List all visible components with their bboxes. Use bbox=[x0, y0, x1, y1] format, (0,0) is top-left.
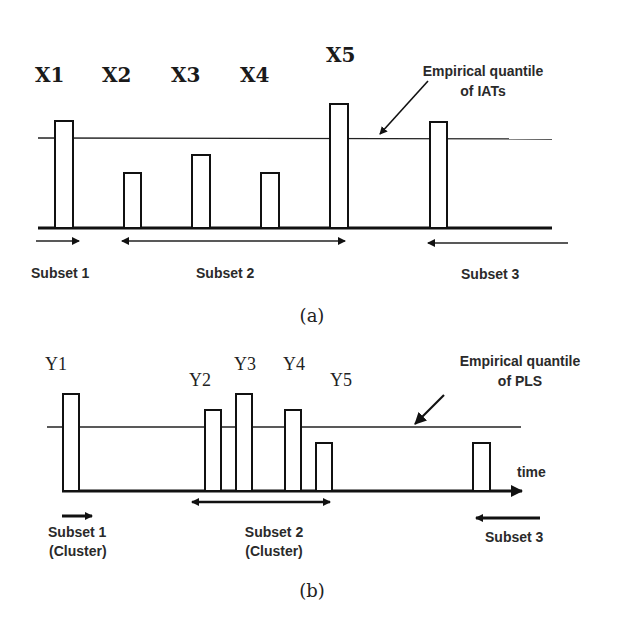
bar-6 bbox=[473, 443, 490, 491]
bar-6 bbox=[430, 122, 447, 228]
bar-label-x3: X3 bbox=[171, 63, 200, 87]
bar-x1 bbox=[55, 121, 73, 228]
bar-label-x1: X1 bbox=[35, 63, 64, 87]
subset2-label-line1: Subset 2 bbox=[245, 524, 304, 540]
quantile-annotation-line1: Empirical quantile bbox=[460, 353, 581, 369]
subset1-label-line1: Subset 1 bbox=[48, 524, 107, 540]
caption-b: (b) bbox=[299, 580, 325, 601]
bar-label-x5: X5 bbox=[326, 43, 355, 67]
figure: X1 X2 X3 X4 X5 Empirical quantile of IAT… bbox=[0, 0, 624, 632]
bar-label-y5: Y5 bbox=[330, 370, 352, 390]
bar-label-x2: X2 bbox=[102, 63, 131, 87]
subset3-label: Subset 3 bbox=[461, 266, 520, 282]
subset1-label-line2: (Cluster) bbox=[49, 543, 107, 559]
panel-b: Y1 Y2 Y3 Y4 Y5 Empirical quantile of PLS… bbox=[45, 353, 581, 601]
bar-x4 bbox=[261, 173, 279, 228]
bar-x2 bbox=[124, 173, 141, 228]
annotation-arrow bbox=[380, 81, 428, 134]
bar-label-y2: Y2 bbox=[189, 370, 211, 390]
quantile-annotation-line2: of PLS bbox=[498, 373, 542, 389]
panel-a: X1 X2 X3 X4 X5 Empirical quantile of IAT… bbox=[31, 43, 568, 326]
bar-x3 bbox=[192, 155, 210, 228]
quantile-annotation-line2: of IATs bbox=[460, 83, 506, 99]
bar-y5 bbox=[316, 443, 332, 491]
subset1-label: Subset 1 bbox=[31, 265, 90, 281]
quantile-annotation-line1: Empirical quantile bbox=[423, 63, 544, 79]
bar-y2 bbox=[205, 410, 221, 491]
bar-x5 bbox=[330, 104, 348, 228]
bar-label-y4: Y4 bbox=[283, 354, 305, 374]
time-axis-label: time bbox=[517, 464, 546, 480]
bar-label-y1: Y1 bbox=[45, 354, 67, 374]
bar-y1 bbox=[63, 394, 79, 491]
bar-label-x4: X4 bbox=[240, 63, 270, 87]
caption-a: (a) bbox=[300, 305, 325, 326]
subset2-label-line2: (Cluster) bbox=[245, 543, 303, 559]
bar-y3 bbox=[236, 394, 252, 491]
quantile-line bbox=[38, 138, 552, 139]
subset3-label: Subset 3 bbox=[485, 529, 544, 545]
subset2-label: Subset 2 bbox=[196, 265, 255, 281]
bar-label-y3: Y3 bbox=[234, 354, 256, 374]
annotation-arrow bbox=[415, 395, 444, 424]
bar-y4 bbox=[285, 410, 301, 491]
